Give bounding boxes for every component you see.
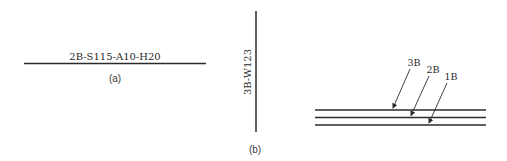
figure-a: 2B-S115-A10-H20 (a) xyxy=(24,51,206,84)
figure-b-vertical: 3B-W123 (b) xyxy=(242,11,261,155)
layer-label-2b: 2B xyxy=(426,64,439,75)
figure-b-layers: 3B 2B 1B xyxy=(315,57,486,125)
layer-label-1b: 1B xyxy=(444,71,457,82)
figure-b-caption: (b) xyxy=(249,144,261,155)
figure-a-label: 2B-S115-A10-H20 xyxy=(69,51,160,62)
figure-a-caption: (a) xyxy=(109,73,121,84)
arrow-3b-icon xyxy=(393,69,410,108)
diagram-canvas: 2B-S115-A10-H20 (a) 3B-W123 (b) 3B 2B 1B xyxy=(0,0,507,161)
layer-label-3b: 3B xyxy=(407,57,420,68)
vertical-label: 3B-W123 xyxy=(242,49,253,95)
